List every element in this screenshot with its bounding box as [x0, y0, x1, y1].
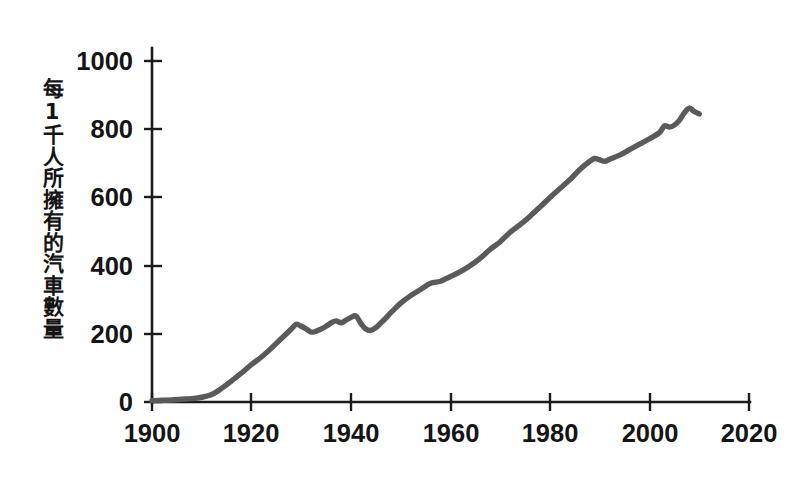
y-tick-label-0: 0 [119, 388, 133, 416]
y-tick-label-200: 200 [90, 320, 133, 348]
x-tick-label-1900: 1900 [124, 419, 181, 447]
y-tick-label-600: 600 [90, 183, 133, 211]
x-tick-label-1940: 1940 [323, 419, 380, 447]
x-tick-label-1960: 1960 [423, 419, 480, 447]
data-series-line [152, 108, 699, 401]
y-tick-label-1000: 1000 [76, 47, 133, 75]
chart-container: 每1千人所擁有的汽車數量 0 200 400 600 [0, 0, 801, 481]
line-chart-plot: 0 200 400 600 800 1000 1900 1920 1940 19… [0, 0, 801, 481]
x-tick-label-1920: 1920 [223, 419, 280, 447]
x-tick-label-2020: 2020 [721, 419, 778, 447]
y-tick-label-800: 800 [90, 115, 133, 143]
x-tick-label-2000: 2000 [622, 419, 679, 447]
y-tick-label-400: 400 [90, 252, 133, 280]
x-tick-label-1980: 1980 [522, 419, 579, 447]
